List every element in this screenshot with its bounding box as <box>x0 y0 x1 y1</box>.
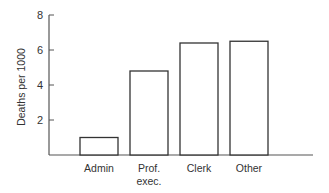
y-tick-label: 8 <box>37 9 43 21</box>
y-tick-label: 6 <box>37 44 43 56</box>
y-axis-title: Deaths per 1000 <box>15 48 27 126</box>
bars <box>80 41 268 155</box>
category-label-line: Other <box>236 162 263 174</box>
bar-prof-exec <box>130 71 168 155</box>
chart-canvas: 2468 AdminProf.exec.ClerkOther Deaths pe… <box>0 0 329 193</box>
category-label-line: exec. <box>136 175 161 187</box>
bar-chart: 2468 AdminProf.exec.ClerkOther Deaths pe… <box>0 0 329 193</box>
category-label: Other <box>236 162 263 174</box>
bar-clerk <box>180 43 218 155</box>
bar-other <box>230 41 268 155</box>
y-axis: 2468 <box>37 9 54 155</box>
y-tick-label: 2 <box>37 114 43 126</box>
category-label-line: Prof. <box>138 162 160 174</box>
bar-admin <box>80 138 118 156</box>
category-label-line: Admin <box>84 162 114 174</box>
y-tick-label: 4 <box>37 79 43 91</box>
category-labels: AdminProf.exec.ClerkOther <box>84 162 263 187</box>
category-label-line: Clerk <box>187 162 212 174</box>
category-label: Admin <box>84 162 114 174</box>
category-label: Clerk <box>187 162 212 174</box>
category-label: Prof.exec. <box>136 162 161 187</box>
